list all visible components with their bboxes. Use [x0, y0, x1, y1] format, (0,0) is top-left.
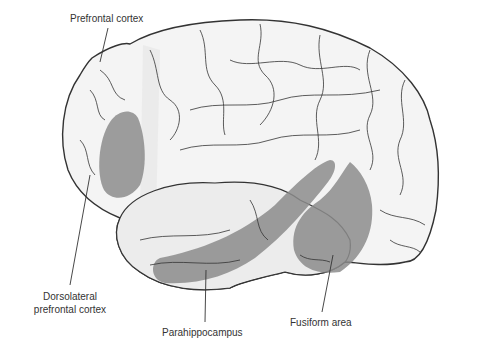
label-parahippocampus: Parahippocampus	[162, 326, 243, 339]
label-dlpfc-line1: Dorsolateral	[30, 290, 110, 303]
label-fusiform-area: Fusiform area	[290, 316, 352, 329]
label-dlpfc: Dorsolateral prefrontal cortex	[30, 290, 110, 316]
brain-diagram: Prefrontal cortex Dorsolateral prefronta…	[0, 0, 478, 357]
label-prefrontal-cortex: Prefrontal cortex	[70, 12, 143, 25]
label-dlpfc-line2: prefrontal cortex	[30, 303, 110, 316]
